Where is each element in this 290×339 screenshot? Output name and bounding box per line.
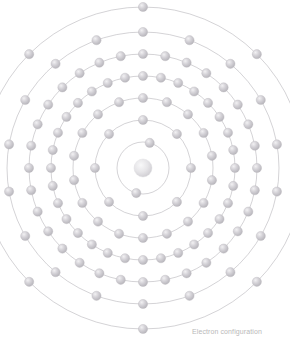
electron-l-4: [172, 197, 181, 206]
electron-o-7: [244, 120, 253, 129]
electron-q-6: [25, 277, 34, 286]
atomic-nucleus: [134, 159, 152, 177]
electron-l-8: [104, 129, 113, 138]
electron-configuration-caption: Electron configuration: [192, 328, 262, 336]
electron-o-12: [233, 227, 242, 236]
electron-n-19: [103, 248, 112, 257]
electron-n-18: [120, 254, 129, 263]
electron-n-4: [190, 87, 199, 96]
electron-n-20: [87, 240, 96, 249]
electron-m-13: [78, 198, 87, 207]
electron-n-3: [174, 78, 183, 87]
electron-n-22: [62, 215, 71, 224]
electron-o-16: [161, 275, 170, 284]
nucleus-group: [134, 159, 152, 177]
electron-o-10: [250, 186, 259, 195]
electron-q-2: [252, 50, 261, 59]
electron-n-7: [223, 128, 232, 137]
electron-m-15: [69, 151, 78, 160]
electron-n-10: [229, 181, 238, 190]
electron-m-16: [78, 128, 87, 137]
electron-m-10: [138, 233, 147, 242]
electron-o-31: [95, 58, 104, 67]
electron-m-5: [207, 151, 216, 160]
atom-svg-canvas: [0, 0, 290, 339]
electron-n-25: [46, 163, 55, 172]
bohr-atom-diagram: Electron configuration: [0, 0, 290, 339]
electron-l-3: [186, 163, 195, 172]
electron-p-15: [4, 140, 13, 149]
electron-m-1: [138, 93, 147, 102]
electron-n-15: [174, 248, 183, 257]
electron-p-18: [92, 36, 101, 45]
electron-o-5: [219, 83, 228, 92]
electron-n-11: [223, 199, 232, 208]
electron-o-9: [252, 163, 261, 172]
electron-o-11: [244, 207, 253, 216]
electron-n-31: [103, 78, 112, 87]
electron-o-28: [44, 100, 53, 109]
electron-o-8: [250, 141, 259, 150]
electron-o-32: [116, 52, 125, 61]
electron-o-26: [27, 141, 36, 150]
electron-p-17: [51, 59, 60, 68]
electron-p-9: [185, 291, 194, 300]
electron-n-24: [48, 181, 57, 190]
electron-p-4: [256, 95, 265, 104]
electron-l-5: [138, 211, 147, 220]
electron-p-14: [4, 187, 13, 196]
electron-n-16: [156, 254, 165, 263]
electron-o-14: [202, 258, 211, 267]
electron-m-11: [114, 229, 123, 238]
electron-o-21: [58, 244, 67, 253]
electron-n-23: [53, 199, 62, 208]
electron-n-26: [48, 145, 57, 154]
electron-o-4: [202, 69, 211, 78]
electron-n-6: [215, 112, 224, 121]
electron-o-25: [24, 163, 33, 172]
electron-o-23: [33, 207, 42, 216]
electron-n-30: [87, 87, 96, 96]
electron-p-13: [21, 231, 30, 240]
electron-p-7: [256, 231, 265, 240]
electron-o-2: [161, 52, 170, 61]
electron-o-15: [182, 269, 191, 278]
electron-n-14: [190, 240, 199, 249]
electron-m-7: [199, 198, 208, 207]
electron-q-1: [138, 2, 147, 11]
electron-p-5: [272, 140, 281, 149]
electron-n-28: [62, 112, 71, 121]
electron-o-19: [95, 269, 104, 278]
electron-p-16: [21, 95, 30, 104]
electron-p-2: [185, 36, 194, 45]
electron-m-8: [183, 217, 192, 226]
electron-o-30: [75, 69, 84, 78]
electron-p-3: [226, 59, 235, 68]
electron-m-14: [69, 176, 78, 185]
electron-p-11: [92, 291, 101, 300]
electron-l-2: [172, 129, 181, 138]
electron-m-3: [183, 110, 192, 119]
electron-n-12: [215, 215, 224, 224]
electron-m-4: [199, 128, 208, 137]
electron-k-2: [132, 189, 141, 198]
electron-k-1: [145, 138, 154, 147]
electron-q-8: [25, 50, 34, 59]
electron-n-2: [156, 73, 165, 82]
electron-n-5: [203, 98, 212, 107]
electron-m-18: [114, 98, 123, 107]
electron-m-12: [93, 217, 102, 226]
electron-q-5: [138, 324, 147, 333]
electron-o-22: [44, 227, 53, 236]
electron-p-12: [51, 268, 60, 277]
electron-o-13: [219, 244, 228, 253]
electron-o-6: [233, 100, 242, 109]
electron-o-17: [138, 277, 147, 286]
electron-o-20: [75, 258, 84, 267]
electron-q-4: [252, 277, 261, 286]
electron-n-17: [138, 255, 147, 264]
electron-n-21: [73, 228, 82, 237]
electron-p-6: [272, 187, 281, 196]
electron-o-27: [33, 120, 42, 129]
electron-m-6: [207, 176, 216, 185]
